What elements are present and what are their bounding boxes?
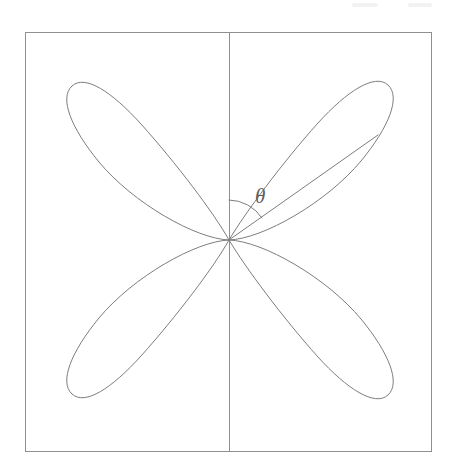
- figure-border-frame: [26, 33, 432, 452]
- rose-petal-upper-right: [229, 81, 393, 240]
- rose-petal-upper-left: [67, 82, 229, 240]
- rose-diagram-svg: [0, 0, 457, 476]
- rose-petal-lower-right: [229, 240, 393, 399]
- rose-petal-lower-left: [67, 240, 229, 398]
- radius-vector-line: [229, 135, 378, 240]
- figure-canvas: θ: [0, 0, 457, 476]
- theta-angle-label: θ: [255, 186, 265, 207]
